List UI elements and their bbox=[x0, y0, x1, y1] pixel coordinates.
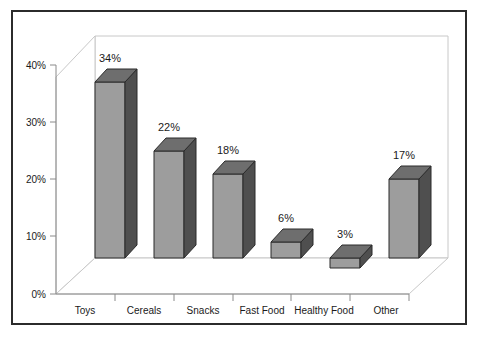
bar-value-label-toys: 34% bbox=[99, 52, 121, 64]
bar-value-label-fast-food: 6% bbox=[278, 212, 294, 224]
floor-plane bbox=[56, 258, 448, 294]
y-axis-label-40: 40% bbox=[26, 60, 46, 71]
bar-front-cereals[interactable] bbox=[154, 151, 184, 258]
x-axis-label-toys: Toys bbox=[75, 305, 96, 316]
x-axis-label-other: Other bbox=[373, 305, 399, 316]
y-axis-label-0: 0% bbox=[32, 289, 47, 300]
y-axis-label-20: 20% bbox=[26, 174, 46, 185]
x-axis-label-healthy-food: Healthy Food bbox=[294, 305, 353, 316]
bar-side-snacks[interactable] bbox=[243, 161, 255, 258]
bar-side-cereals[interactable] bbox=[184, 138, 196, 258]
bar-side-other[interactable] bbox=[419, 166, 431, 258]
bar-group-toys[interactable]: 34% bbox=[95, 52, 137, 258]
x-axis bbox=[56, 294, 409, 301]
x-axis-label-snacks: Snacks bbox=[187, 305, 220, 316]
bar-front-other[interactable] bbox=[389, 179, 419, 258]
left-wall bbox=[56, 36, 95, 294]
y-axis-label-30: 30% bbox=[26, 117, 46, 128]
x-axis-category-labels: Toys Cereals Snacks Fast Food Healthy Fo… bbox=[75, 305, 399, 316]
x-axis-label-fast-food: Fast Food bbox=[239, 305, 284, 316]
bar-value-label-snacks: 18% bbox=[217, 144, 239, 156]
bar-value-label-healthy-food: 3% bbox=[337, 228, 353, 240]
bar-front-healthy-food[interactable] bbox=[330, 258, 360, 268]
bar-value-label-cereals: 22% bbox=[158, 121, 180, 133]
bar-front-fast-food[interactable] bbox=[271, 242, 301, 258]
bar-front-toys[interactable] bbox=[95, 82, 125, 258]
y-axis: 0% 10% 20% 30% 40% bbox=[26, 60, 56, 300]
bar-value-label-other: 17% bbox=[393, 149, 415, 161]
x-axis-label-cereals: Cereals bbox=[127, 305, 161, 316]
chart-frame: 0% 10% 20% 30% 40% 34% bbox=[11, 10, 467, 325]
bar-chart-3d: 0% 10% 20% 30% 40% 34% bbox=[13, 12, 465, 323]
y-axis-label-10: 10% bbox=[26, 231, 46, 242]
bar-front-snacks[interactable] bbox=[213, 174, 243, 258]
bar-side-toys[interactable] bbox=[125, 69, 137, 258]
